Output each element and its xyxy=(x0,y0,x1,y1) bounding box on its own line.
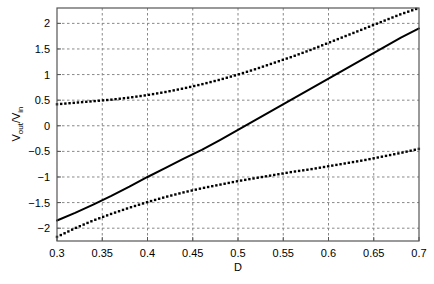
x-tick-label: 0.6 xyxy=(321,247,336,259)
x-tick-label: 0.7 xyxy=(411,247,426,259)
x-tick-label: 0.4 xyxy=(140,247,155,259)
y-tick-label: 0 xyxy=(44,120,50,132)
y-tick-label: −1.5 xyxy=(28,197,50,209)
y-tick-label: −0.5 xyxy=(28,145,50,157)
y-tick-label: −1 xyxy=(37,171,50,183)
y-tick-label: 2 xyxy=(44,17,50,29)
y-tick-label: 1.5 xyxy=(35,43,50,55)
x-tick-label: 0.5 xyxy=(230,247,245,259)
x-tick-label: 0.35 xyxy=(92,247,113,259)
x-tick-label: 0.3 xyxy=(49,247,64,259)
y-axis-title-sub-in: in xyxy=(16,106,25,112)
chart-figure: 0.30.350.40.450.50.550.60.650.7 −2−1.5−1… xyxy=(0,0,434,284)
y-axis-title-slash-v: /V xyxy=(10,112,22,123)
x-axis-title: D xyxy=(234,261,242,273)
y-tick-label: 0.5 xyxy=(35,94,50,106)
x-tick-label: 0.45 xyxy=(182,247,203,259)
y-axis-title-sub-out: out xyxy=(16,122,25,134)
line-chart: 0.30.350.40.450.50.550.60.650.7 −2−1.5−1… xyxy=(0,0,434,284)
y-tick-label: −2 xyxy=(37,222,50,234)
y-tick-label: 1 xyxy=(44,69,50,81)
x-tick-label: 0.55 xyxy=(273,247,294,259)
x-tick-label: 0.65 xyxy=(363,247,384,259)
